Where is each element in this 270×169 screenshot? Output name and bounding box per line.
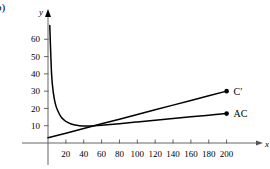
x-tick-group: 20406080100120140160180200 — [61, 140, 233, 160]
x-tick-label: 160 — [184, 149, 198, 159]
y-tick-label: 40 — [31, 69, 41, 79]
series-group — [48, 25, 229, 137]
curve-c — [48, 91, 227, 138]
series-label-ac: AC — [234, 108, 248, 119]
curve-ac — [50, 25, 227, 126]
x-tick-label: 180 — [202, 149, 216, 159]
y-tick-group: 102030405060 — [31, 34, 49, 130]
x-tick-label: 40 — [79, 149, 89, 159]
axes-group: xy — [22, 7, 269, 165]
x-axis-label: x — [264, 139, 269, 149]
x-tick-label: 200 — [220, 149, 234, 159]
endpoint-marker — [224, 89, 229, 94]
figure-panel: b) xy 20406080100120140160180200 1020304… — [0, 0, 270, 169]
y-tick-label: 10 — [31, 121, 41, 131]
x-tick-label: 20 — [61, 149, 71, 159]
x-tick-label: 60 — [97, 149, 107, 159]
y-tick-label: 60 — [31, 34, 41, 44]
x-tick-label: 140 — [166, 149, 180, 159]
y-tick-label: 20 — [31, 104, 41, 114]
cost-curves-chart: xy 20406080100120140160180200 1020304050… — [0, 0, 270, 169]
x-tick-label: 120 — [148, 149, 162, 159]
x-tick-label: 100 — [131, 149, 145, 159]
y-axis-label: y — [38, 7, 43, 17]
x-tick-label: 80 — [115, 149, 125, 159]
series-label-group: C′AC — [234, 86, 248, 119]
y-tick-label: 50 — [31, 52, 41, 62]
y-tick-label: 30 — [31, 86, 41, 96]
endpoint-marker — [224, 111, 229, 116]
series-label-c: C′ — [234, 86, 243, 97]
